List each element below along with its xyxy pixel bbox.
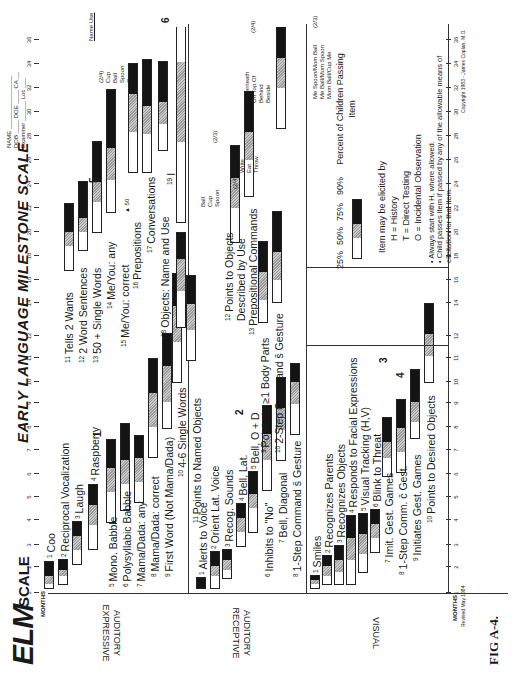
bar-50-single-words <box>92 141 102 233</box>
legend-note-2: • Child passes item if passed by any of … <box>435 33 453 263</box>
bar-mama-dada-any <box>134 435 144 503</box>
axis-tick-label: 34 <box>26 61 32 68</box>
axis-tick <box>446 381 451 382</box>
axis-tick-label: 8 <box>453 425 459 428</box>
axis-tick <box>446 402 451 403</box>
copyright: Copyright 1983 - James Coplan, M.D. <box>460 29 467 113</box>
axis-tick-label: 32 <box>26 85 32 92</box>
axis-tick-label: 10 <box>26 379 32 386</box>
bar-visual-tracking <box>358 513 368 573</box>
axis-tick-label: 18 <box>26 253 32 260</box>
bar-tells-2-wants <box>64 203 74 271</box>
elm-logo-suffix: SCALE <box>15 556 32 607</box>
bar-points-named-objects <box>186 275 196 361</box>
bar-recognizes-objects <box>334 545 344 585</box>
checklist-ball-cup-spoon: Ball Cup Spoon <box>200 190 221 207</box>
axis-tick <box>446 449 451 450</box>
axis-tick-label: 26 <box>453 157 459 164</box>
axis-tick <box>34 302 39 303</box>
checklist-two-step-score: (2/3) <box>312 16 319 28</box>
expr-label-7: 7Mama/Dada: any <box>134 501 147 587</box>
bar-alerts-to-voice <box>196 577 206 589</box>
rec-label-11: 11Points to Named Objects <box>190 398 203 523</box>
axis-tick <box>34 426 39 427</box>
expr-label-11: 11Tells 2 Wants <box>62 292 75 363</box>
bar-imit-gest-games <box>382 417 392 477</box>
checklist-name-use-header: Name Use <box>88 13 95 41</box>
legend-bar <box>352 199 362 259</box>
axis-tick <box>34 87 39 88</box>
axis-tick <box>34 381 39 382</box>
axis-tick <box>34 255 39 256</box>
axis-tick-label: 36 <box>453 37 459 44</box>
expr-label-3: 3Laugh <box>72 484 85 519</box>
checklist-use: (2/4) Drink Write Eat Throw <box>232 156 260 189</box>
elm-logo: ELM <box>6 605 40 665</box>
checklist-prepositions-score: (2/4) <box>250 21 257 33</box>
expr-label-9: 9First Word (Not Mama/Dada) <box>162 437 175 577</box>
form-fields: NAME ________________ DOB ____ DOE ____ … <box>6 8 27 148</box>
axis-tick <box>34 519 39 520</box>
axis-tick <box>446 426 451 427</box>
axis-tick-label: 1 <box>453 591 459 594</box>
axis-tick <box>34 159 39 160</box>
axis-tick-label: 6 <box>453 472 459 475</box>
bar-points-body-parts <box>258 241 268 323</box>
axis-tick-label: 6 <box>26 472 32 475</box>
axis-tick-label: 30 <box>26 109 32 116</box>
vis-label-9: 9Initiates Gest. Games <box>410 454 423 561</box>
section-label-receptive: AUDITORY RECEPTIVE <box>230 603 252 663</box>
axis-tick <box>34 183 39 184</box>
axis-tick-label: 32 <box>453 85 459 92</box>
axis-tick <box>34 39 39 40</box>
checklist-ball-cup-spoon-score: (2/3) <box>212 131 219 143</box>
section-label-visual: VISUAL <box>370 603 381 663</box>
axis-tick-label: 10 <box>453 379 459 386</box>
bar-coo <box>44 561 54 589</box>
axis-baseline <box>48 593 508 594</box>
legend-code-o: O = Incidental Observation <box>412 134 424 241</box>
bar-points-desired-objects <box>424 303 434 383</box>
bar-2-word-sentences <box>78 181 88 251</box>
axis-tick-label: 11 <box>26 355 32 361</box>
axis-tick-label: 34 <box>453 61 459 68</box>
axis-tick-label: 8 <box>26 425 32 428</box>
axis-tick-label: 20 <box>453 229 459 236</box>
annotation-3: 3 <box>378 357 389 363</box>
bar-conversations <box>142 59 152 173</box>
axis-tick <box>34 402 39 403</box>
axis-tick <box>34 231 39 232</box>
axis-tick-label: 24 <box>26 181 32 188</box>
vis-label-7: 7Imit. Gest. Games <box>382 473 395 563</box>
axis-tick-label: 2 <box>453 565 459 568</box>
rec-label-12: 12Points to Objects Described by Use <box>222 211 247 321</box>
axis-tick-label: 11 <box>453 355 459 361</box>
axis-tick-label: 16 <box>453 277 459 284</box>
legend-elicited-by: Item may be elicited by <box>376 161 388 253</box>
expr-label-6: 6Polysyllabic Babble <box>120 491 133 587</box>
bar-two-step-ext <box>276 27 286 129</box>
bar-recog-sounds <box>222 549 232 579</box>
marker-50: ▲ 50 <box>124 199 131 213</box>
expr-label-14: 14Me/You: any <box>104 242 117 309</box>
axis-tick <box>34 544 39 545</box>
annotation-6: 6 <box>160 17 171 23</box>
axis-tick-label: 28 <box>453 133 459 140</box>
bar-first-word <box>162 333 172 429</box>
legend-pct-50: 50% <box>334 227 346 245</box>
axis-tick <box>34 496 39 497</box>
expr-label-2: 2Reciprocal Vocalization <box>58 443 71 557</box>
axis-tick-label: 4 <box>26 518 32 521</box>
annotation-4: 4 <box>395 372 406 378</box>
axis-tick <box>446 473 451 474</box>
expr-label-1: 1Coo <box>44 533 57 558</box>
bar-bell-lat <box>236 503 246 547</box>
expr-label-8: 8Mama/Dada: correct <box>148 476 161 577</box>
months-label-bottom: MONTHS <box>452 595 459 621</box>
annotation-2: 2 <box>234 409 245 415</box>
axis-tick-label: 12 <box>26 333 32 340</box>
rec-label-7: 7Bell, Diagonal <box>276 473 289 543</box>
legend-pct-75: 75% <box>334 203 346 221</box>
axis-tick-label: 22 <box>26 205 32 212</box>
rec-label-6: 6Inhibits to "No" <box>262 503 275 577</box>
